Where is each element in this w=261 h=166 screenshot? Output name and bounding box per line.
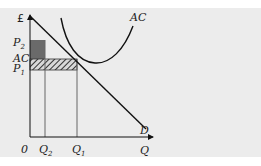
ac-curve-label: AC (129, 11, 147, 24)
cost-demand-diagram: £ P2 AC P1 AC D 0 Q2 Q1 Q (0, 0, 261, 166)
hatched-region (30, 59, 77, 70)
q1-label: Q1 (72, 143, 86, 158)
q2-label: Q2 (39, 143, 53, 158)
demand-curve (30, 16, 146, 129)
origin-label: 0 (21, 143, 28, 156)
y-axis-label: £ (17, 12, 24, 25)
p2-label: P2 (12, 36, 25, 51)
dark-shaded-region (30, 40, 45, 59)
demand-curve-label: D (139, 124, 149, 137)
x-axis-label: Q (140, 144, 149, 157)
